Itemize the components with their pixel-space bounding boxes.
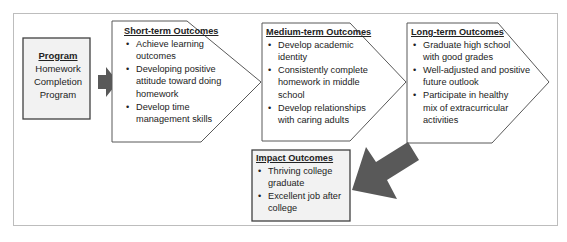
medium-term-outcomes: Medium-term Outcomes Develop academic id… [266, 26, 376, 127]
list-item: Develop time management skills [124, 101, 228, 126]
list-item: Participate in healthy mix of extracurri… [411, 89, 517, 127]
list-item: Thriving college graduate [256, 165, 338, 190]
program-label: Program Homework Completion Program [29, 49, 87, 101]
down-left-arrow-icon [352, 142, 419, 199]
list-item: Graduate high school with good grades [411, 39, 523, 64]
short-term-outcomes: Short-term Outcomes Achieve learning out… [124, 25, 242, 126]
short-term-title: Short-term Outcomes [124, 25, 242, 38]
list-item: Developing positive attitude toward doin… [124, 63, 242, 101]
program-title: Program [29, 49, 87, 62]
list-item: Achieve learning outcomes [124, 38, 242, 63]
program-line: Homework [29, 62, 87, 75]
medium-term-title: Medium-term Outcomes [266, 26, 376, 39]
list-item: Excellent job after college [256, 190, 348, 215]
program-line: Completion [29, 75, 87, 88]
list-item: Well-adjusted and positive future outloo… [411, 64, 533, 89]
program-line: Program [29, 88, 87, 101]
list-item: Consistently complete homework in middle… [266, 64, 374, 102]
long-term-title: Long-term Outcomes [411, 26, 523, 39]
impact-title: Impact Outcomes [256, 152, 348, 165]
impact-outcomes: Impact Outcomes Thriving college graduat… [256, 152, 348, 215]
list-item: Develop relationships with caring adults [266, 102, 378, 127]
list-item: Develop academic identity [266, 39, 374, 64]
long-term-outcomes: Long-term Outcomes Graduate high school … [411, 26, 523, 127]
